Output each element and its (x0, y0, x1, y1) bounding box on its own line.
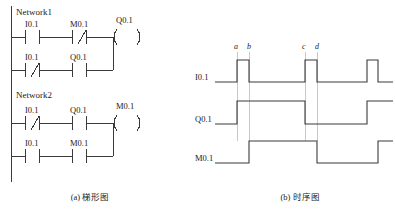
marker-label-c: c (302, 43, 306, 51)
rung2b-contact1-label: I0.1 (25, 139, 38, 148)
rung1b-contact2-label: Q0.1 (70, 53, 87, 62)
network1-label: Network1 (16, 8, 52, 17)
waveform-q01 (215, 101, 393, 124)
caption-ladder: (a) 梯形图 (0, 190, 180, 202)
caption-timing: (b) 时序图 (220, 190, 380, 202)
rung1-contact1-label: I0.1 (25, 20, 38, 29)
rung2-coil-label: M0.1 (116, 102, 134, 111)
figure-root: Network1 I0.1 M0.1 Q0.1 I0.1 Q0.1 Networ… (0, 0, 395, 209)
rung1-contact2-label: M0.1 (70, 20, 88, 29)
rung1b-contact1-label: I0.1 (25, 53, 38, 62)
signal-label-i01: I0.1 (195, 73, 208, 82)
network2-label: Network2 (16, 91, 52, 100)
marker-label-a: a (234, 43, 238, 51)
rung2-contact2-label: Q0.1 (70, 106, 87, 115)
marker-label-b: b (247, 43, 251, 51)
signal-label-m01: M0.1 (195, 154, 213, 163)
timing-diagram-canvas (0, 0, 395, 209)
signal-label-q01: Q0.1 (195, 115, 212, 124)
rung2-contact1-label: I0.1 (25, 106, 38, 115)
waveform-i01 (215, 60, 393, 82)
marker-label-d: d (315, 43, 319, 51)
rung2b-contact2-label: M0.1 (70, 139, 88, 148)
rung1-coil-label: Q0.1 (116, 16, 133, 25)
waveform-m01 (215, 141, 393, 163)
